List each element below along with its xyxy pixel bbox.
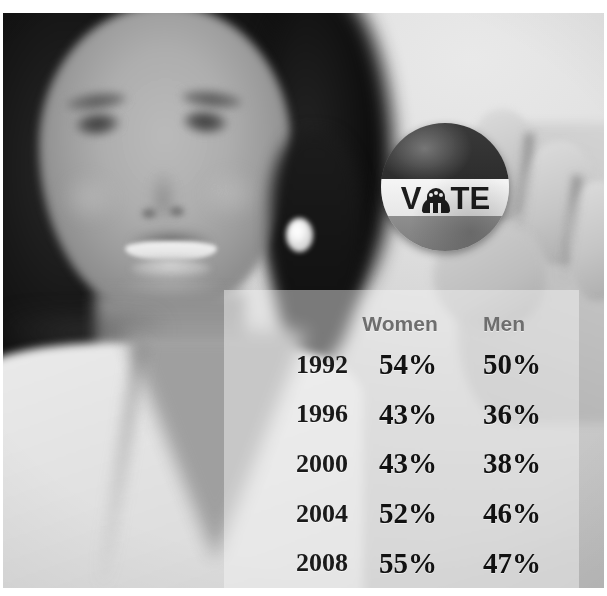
cell-year: 2000 [224, 449, 356, 479]
cell-year: 1992 [224, 350, 356, 380]
header-women: Women [348, 312, 452, 336]
cell-women: 43% [356, 447, 460, 480]
cell-women: 43% [356, 398, 460, 431]
cell-women: 55% [356, 547, 460, 580]
page-edge-bottom [0, 588, 607, 596]
screenshot-root: V T E Women Men [0, 0, 607, 596]
header-men: Men [452, 312, 556, 336]
cell-men: 38% [460, 447, 564, 480]
cell-year: 2008 [224, 548, 356, 578]
table-row: 1992 54% 50% [224, 340, 579, 390]
table-row: 2008 55% 47% [224, 538, 579, 588]
cell-year: 2004 [224, 499, 356, 529]
page-edge-top [0, 0, 607, 13]
cell-year: 1996 [224, 399, 356, 429]
table-row: 2004 52% 46% [224, 489, 579, 539]
table-row: 1996 43% 36% [224, 390, 579, 440]
table-header-row: Women Men [224, 290, 579, 340]
cell-women: 52% [356, 497, 460, 530]
cell-men: 50% [460, 348, 564, 381]
table-row: 2000 43% 38% [224, 439, 579, 489]
cell-men: 36% [460, 398, 564, 431]
cell-women: 54% [356, 348, 460, 381]
page-edge-left [0, 0, 3, 596]
cell-men: 47% [460, 547, 564, 580]
turnout-table: Women Men 1992 54% 50% 1996 43% 36% 2000… [224, 290, 579, 588]
cell-men: 46% [460, 497, 564, 530]
